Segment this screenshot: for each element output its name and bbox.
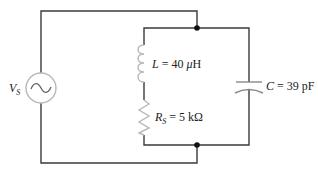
inductor-icon bbox=[138, 45, 144, 82]
circuit-diagram: VS L = 40 μH RS = 5 kΩ C = 39 pF bbox=[0, 0, 318, 175]
resistor-label: RS = 5 kΩ bbox=[154, 110, 203, 126]
resistor-icon bbox=[139, 100, 149, 135]
source-label: VS bbox=[9, 81, 20, 97]
inductor-label: L = 40 μH bbox=[151, 57, 202, 71]
ac-source-icon bbox=[26, 73, 56, 103]
node-top bbox=[194, 25, 200, 31]
wire-top-rail bbox=[144, 28, 249, 82]
capacitor-label: C = 39 pF bbox=[266, 79, 315, 93]
node-bottom bbox=[194, 142, 200, 148]
